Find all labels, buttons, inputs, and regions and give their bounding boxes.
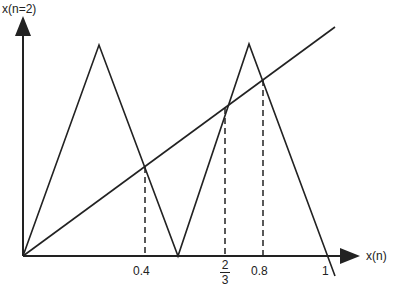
tick-label-0.8: 0.8	[251, 265, 268, 277]
tick-label-0.4: 0.4	[133, 265, 150, 277]
diagram-canvas	[0, 0, 394, 293]
identity-line	[23, 27, 335, 256]
x-axis-label: x(n)	[366, 250, 387, 262]
fraction-denominator: 3	[220, 274, 230, 286]
tick-label-2-3: 2 3	[220, 259, 230, 286]
fraction-numerator: 2	[220, 259, 230, 271]
y-axis-label: x(n=2)	[2, 3, 36, 15]
tick-label-1: 1	[322, 265, 329, 277]
second-iterate-curve	[23, 44, 335, 276]
